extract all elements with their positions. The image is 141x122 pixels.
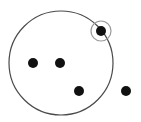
point — [55, 58, 65, 68]
point — [121, 86, 131, 96]
highlighted-point — [96, 26, 106, 36]
point — [28, 58, 38, 68]
point — [74, 86, 84, 96]
diagram-canvas — [0, 0, 141, 122]
points-group — [28, 26, 131, 96]
